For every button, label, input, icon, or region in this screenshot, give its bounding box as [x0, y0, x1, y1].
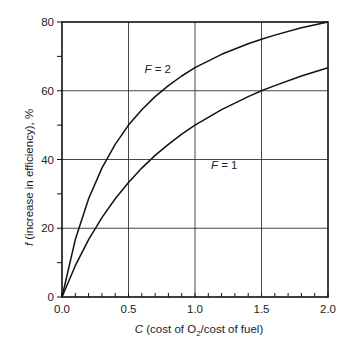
x-tick-label: 0.0	[54, 303, 70, 315]
chart: 0.00.51.01.52.0020406080 C (cost of O2/c…	[0, 0, 355, 352]
grid	[62, 22, 328, 297]
x-tick-label: 1.5	[254, 303, 270, 315]
series-label-f1: F = 1	[211, 159, 238, 171]
tick-labels: 0.00.51.01.52.0020406080	[41, 16, 336, 315]
x-tick-label: 1.0	[187, 303, 203, 315]
x-tick-label: 0.5	[121, 303, 137, 315]
y-tick-label: 80	[41, 16, 54, 28]
y-axis-label: f (increase in efficiency), %	[23, 109, 35, 246]
y-tick-label: 20	[41, 222, 54, 234]
series-label-f2: F = 2	[144, 63, 171, 75]
y-tick-label: 0	[48, 291, 54, 303]
y-tick-label: 40	[41, 154, 54, 166]
x-axis-label: C (cost of O2/cost of fuel)	[135, 323, 264, 338]
y-tick-label: 60	[41, 85, 54, 97]
x-tick-label: 2.0	[320, 303, 336, 315]
